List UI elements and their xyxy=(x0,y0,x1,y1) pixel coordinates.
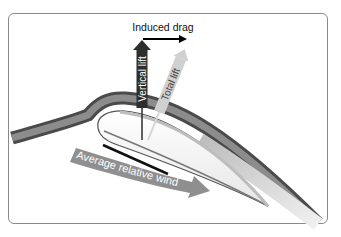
total-lift-label: Total lift xyxy=(159,66,182,102)
induced-drag-arrow: Induced drag xyxy=(132,21,193,43)
vertical-lift-label: Vertical lift xyxy=(137,56,148,102)
lift-drag-diagram: Average relative wind Total lift Vertica… xyxy=(0,0,341,237)
induced-drag-label: Induced drag xyxy=(132,21,193,33)
